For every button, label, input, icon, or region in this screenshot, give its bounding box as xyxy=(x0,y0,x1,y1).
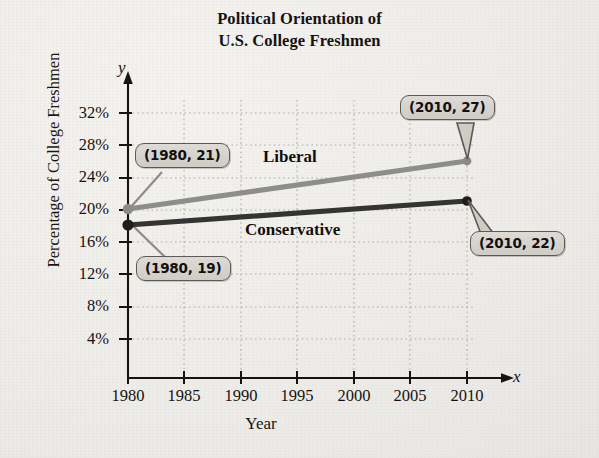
series-conservative-point-1980 xyxy=(122,219,133,230)
callout-leader-lines xyxy=(130,172,166,258)
series-label-conservative: Conservative xyxy=(245,220,340,240)
callout-liberal-2010: (2010, 27) xyxy=(400,95,495,120)
y-axis-arrowhead xyxy=(123,71,133,84)
callout-tail-conservative-2010 xyxy=(468,200,494,234)
series-liberal-line xyxy=(128,161,467,209)
leader-line-conservative-1980 xyxy=(131,224,166,258)
chart-figure: Political Orientation of U.S. College Fr… xyxy=(0,0,599,458)
series-liberal-point-1980 xyxy=(123,204,133,214)
callout-conservative-1980: (1980, 19) xyxy=(136,256,231,281)
x-axis-arrowhead xyxy=(501,373,514,383)
callout-conservative-2010: (2010, 22) xyxy=(470,231,565,256)
series-label-liberal: Liberal xyxy=(263,147,317,167)
callout-liberal-1980: (1980, 21) xyxy=(135,143,230,168)
callout-tail-liberal-2010 xyxy=(457,123,474,159)
